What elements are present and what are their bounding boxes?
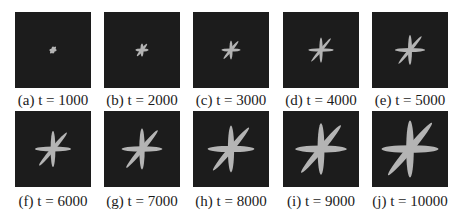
star-pattern-icon <box>193 111 269 187</box>
panel-caption: (h) t = 8000 <box>186 193 276 209</box>
simulation-panel <box>104 111 180 187</box>
simulation-panel <box>193 12 269 88</box>
panel-caption: (d) t = 4000 <box>276 92 366 108</box>
panel-caption: (c) t = 3000 <box>186 92 276 108</box>
simulation-panel <box>15 12 91 88</box>
star-pattern-icon <box>15 111 91 187</box>
panel-caption: (a) t = 1000 <box>8 92 98 108</box>
star-pattern-icon <box>193 12 269 88</box>
panel-caption: (b) t = 2000 <box>97 92 187 108</box>
simulation-panel <box>104 12 180 88</box>
simulation-panel <box>372 12 448 88</box>
star-pattern-icon <box>15 12 91 88</box>
star-pattern-icon <box>104 12 180 88</box>
panel-caption: (g) t = 7000 <box>97 193 187 209</box>
star-pattern-icon <box>283 12 359 88</box>
simulation-panel <box>283 12 359 88</box>
simulation-panel <box>283 111 359 187</box>
panel-caption: (f) t = 6000 <box>8 193 98 209</box>
panel-caption: (e) t = 5000 <box>365 92 455 108</box>
star-pattern-icon <box>372 12 448 88</box>
star-pattern-icon <box>104 111 180 187</box>
simulation-panel <box>372 111 448 187</box>
simulation-panel <box>193 111 269 187</box>
star-pattern-icon <box>283 111 359 187</box>
panel-caption: (j) t = 10000 <box>365 193 455 209</box>
panel-caption: (i) t = 9000 <box>276 193 366 209</box>
star-pattern-icon <box>372 111 448 187</box>
simulation-panel <box>15 111 91 187</box>
